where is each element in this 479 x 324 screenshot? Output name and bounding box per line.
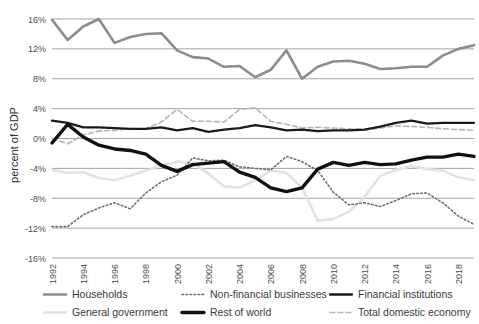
legend-label: Total domestic economy [358, 306, 471, 318]
x-axis-tick-label: 2002 [204, 264, 214, 284]
data-series-group [52, 19, 474, 227]
x-axis-tick-label: 2006 [266, 264, 276, 284]
x-axis-tick-label: 1994 [79, 264, 89, 284]
line-chart-figure: 16%12%8%4%0%-4%-8%-12%-16% 1992199419961… [0, 0, 479, 324]
x-axis-tick-label: 1996 [110, 264, 120, 284]
x-axis-tick-label: 2016 [423, 264, 433, 284]
x-axis-tick-labels: 1992199419961998200020022004200620082010… [48, 264, 464, 284]
x-axis-tick-label: 2008 [298, 264, 308, 284]
legend-item-total-domestic-economy[interactable]: Total domestic economy [330, 306, 471, 318]
x-axis-tick-label: 2014 [391, 264, 401, 284]
y-axis-tick-label: 0% [33, 134, 46, 144]
series-line-general-government [52, 162, 474, 221]
legend-label: Rest of world [210, 306, 271, 318]
legend-label: Non-financial businesses [210, 288, 327, 300]
y-axis-tick-label: -12% [25, 224, 46, 234]
legend-label: General government [72, 306, 168, 318]
y-axis-tick-label: 8% [33, 74, 46, 84]
y-axis-tick-labels: 16%12%8%4%0%-4%-8%-12%-16% [25, 15, 46, 264]
x-axis-tick-label: 2010 [329, 264, 339, 284]
y-axis-tick-label: 4% [33, 104, 46, 114]
gridlines [52, 19, 474, 258]
legend: HouseholdsNon-financial businessesFinanc… [44, 288, 471, 318]
x-axis-tick-label: 2000 [173, 264, 183, 284]
legend-item-general-government[interactable]: General government [44, 306, 168, 318]
y-axis-tick-label: -16% [25, 254, 46, 264]
y-axis-tick-label: -4% [30, 164, 46, 174]
legend-item-non-financial-businesses[interactable]: Non-financial businesses [182, 288, 327, 300]
legend-item-households[interactable]: Households [44, 288, 127, 300]
y-axis-title: percent of GDP [8, 107, 20, 183]
x-axis-tick-label: 1998 [141, 264, 151, 284]
legend-label: Financial institutions [358, 288, 453, 300]
x-axis-tick-label: 1992 [48, 264, 58, 284]
legend-item-financial-institutions[interactable]: Financial institutions [330, 288, 453, 300]
y-axis-tick-label: -8% [30, 194, 46, 204]
y-axis-tick-label: 16% [28, 15, 46, 25]
legend-item-rest-of-world[interactable]: Rest of world [182, 306, 271, 318]
chart-container: 16%12%8%4%0%-4%-8%-12%-16% 1992199419961… [0, 0, 479, 324]
x-axis-tick-label: 2012 [360, 264, 370, 284]
x-axis-tick-label: 2018 [454, 264, 464, 284]
legend-label: Households [72, 288, 127, 300]
x-axis-tick-label: 2004 [235, 264, 245, 284]
y-axis-tick-label: 12% [28, 44, 46, 54]
